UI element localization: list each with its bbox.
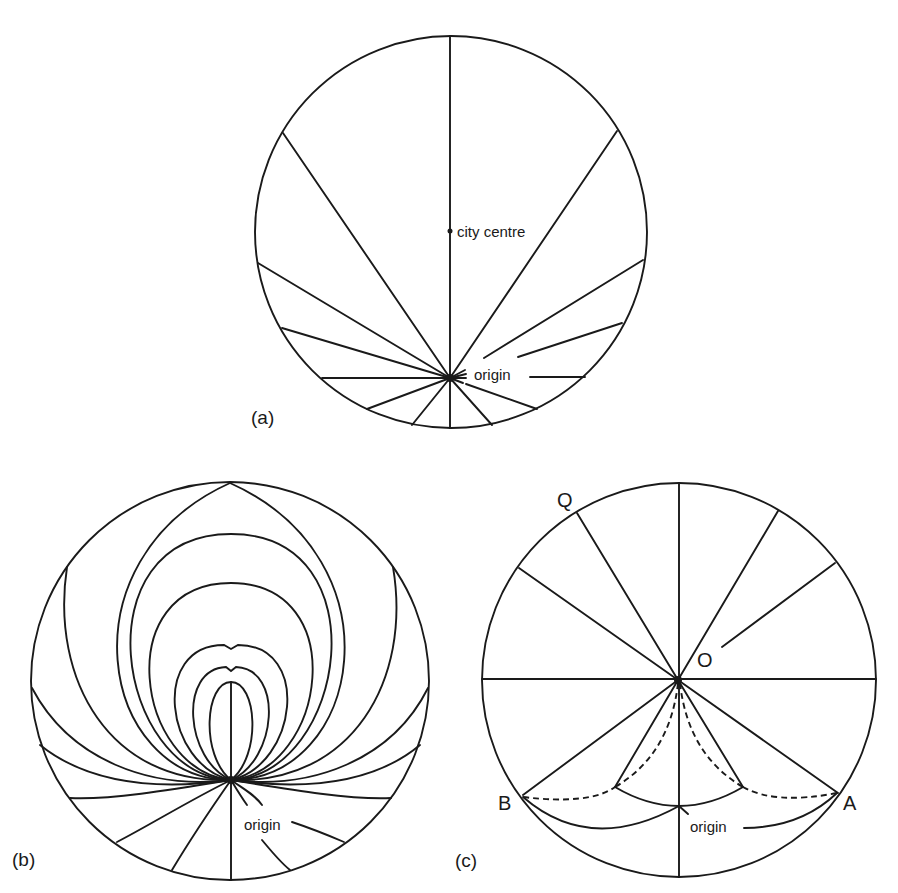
panel-label-a: (a) [251,407,274,428]
panel-label-c: (c) [455,850,477,871]
city-boundary-circle [31,482,429,880]
curved-routes [32,483,428,880]
label-o: O [697,649,713,671]
panel-c: Q O B A origin (c) [455,483,876,877]
label-a: A [843,792,857,814]
dashed-arcs [523,683,837,799]
origin-label: origin [474,366,511,383]
panel-b: origin (b) [12,482,429,880]
solid-arcs [523,787,837,828]
point-o [674,676,682,684]
origin-label: origin [244,816,281,833]
origin-label: origin [690,818,727,835]
origin-point [446,374,454,382]
origin-point [227,776,235,784]
panel-a: city centre origin (a) [251,36,647,428]
panel-label-b: (b) [12,849,35,870]
city-centre-label: city centre [457,223,525,240]
label-b: B [498,792,511,814]
city-centre-dot [448,229,453,234]
figure-canvas: city centre origin (a) [0,0,898,893]
label-q: Q [557,489,573,511]
